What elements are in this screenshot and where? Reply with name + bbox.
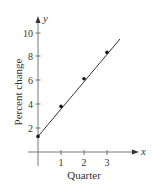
y-tick-label: 10	[23, 28, 33, 39]
x-axis-title: Quarter	[67, 169, 101, 181]
data-point	[36, 135, 40, 139]
x-tick-label: 3	[105, 157, 110, 168]
y-axis-title: Percent change	[12, 58, 24, 125]
x-axis-variable: x	[140, 145, 146, 157]
data-point	[59, 105, 63, 109]
y-axis-variable: y	[42, 12, 48, 24]
y-axis-arrow-icon	[36, 16, 41, 23]
x-tick-label: 1	[59, 157, 64, 168]
x-tick-label: 2	[82, 157, 87, 168]
data-point	[105, 51, 109, 55]
data-point	[82, 77, 86, 81]
chart: 1 2 3 2 4 6 8 10 x y Quarter Percent cha…	[0, 0, 152, 189]
y-tick-label: 6	[28, 75, 33, 86]
x-axis-arrow-icon	[132, 150, 139, 155]
y-tick-label: 4	[28, 99, 33, 110]
y-tick-label: 2	[28, 123, 33, 134]
y-tick-label: 8	[28, 51, 33, 62]
